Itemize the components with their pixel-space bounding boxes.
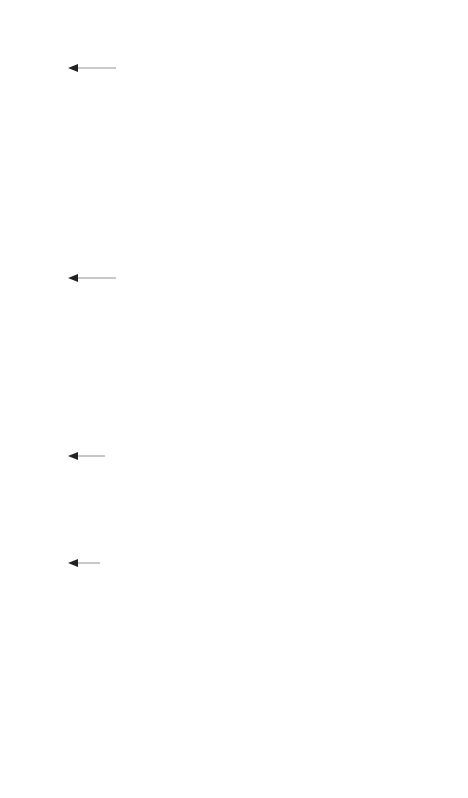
connector-lines [0, 0, 468, 798]
arrow-up-icon [68, 64, 78, 72]
family-tree-diagram [0, 0, 468, 798]
